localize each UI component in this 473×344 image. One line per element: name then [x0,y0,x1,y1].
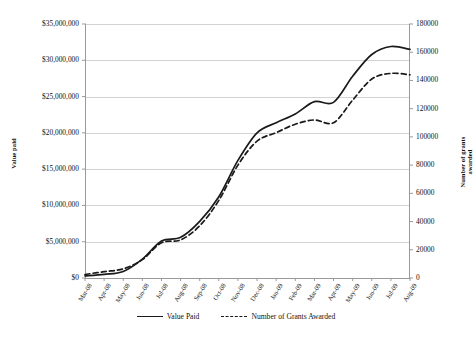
chart-legend: Value PaidNumber of Grants Awarded [0,312,472,321]
legend-label: Number of Grants Awarded [251,312,335,321]
y-tick-label-left: $10,000,000 [0,200,79,209]
y-tick-label-left: $25,000,000 [0,92,79,101]
legend-item[interactable]: Value Paid [137,312,200,321]
legend-swatch-solid [137,313,163,321]
legend-swatch-dashed [221,313,247,321]
y-tick-label-left: $30,000,000 [0,55,79,64]
y-tick-label-right: 20000 [416,245,472,254]
y-tick-label-right: 140000 [416,75,472,84]
y-tick-label-left: $15,000,000 [0,164,79,173]
legend-item[interactable]: Number of Grants Awarded [221,312,335,321]
y-tick-label-left: $20,000,000 [0,128,79,137]
plot-area [85,24,410,278]
y-tick-label-right: 40000 [416,217,472,226]
legend-label: Value Paid [167,312,200,321]
y-tick-label-right: 180000 [416,19,472,28]
y-tick-label-right: 160000 [416,47,472,56]
y-tick-label-right: 120000 [416,104,472,113]
y-tick-label-right: 100000 [416,132,472,141]
y-tick-label-left: $0 [0,273,79,282]
y-tick-label-right: 80000 [416,160,472,169]
axis-tick-marks [85,24,410,286]
y-tick-label-right: 60000 [416,188,472,197]
y-tick-label-right: 0 [416,273,472,282]
y-tick-label-left: $35,000,000 [0,19,79,28]
y-tick-label-left: $5,000,000 [0,237,79,246]
